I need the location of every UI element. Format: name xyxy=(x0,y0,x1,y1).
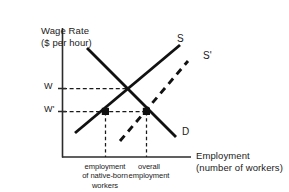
y-axis-title: Wage Rate($ per hour) xyxy=(41,25,92,48)
native-employment-caption-line1: employment xyxy=(85,162,126,171)
wage-low-label: W' xyxy=(44,104,55,115)
x-axis-title-line2: (number of workers) xyxy=(196,162,283,173)
supply-shifted-curve-label: S' xyxy=(203,50,212,62)
wage-high-label: W xyxy=(44,81,53,92)
supply-demand-figure: Wage Rate($ per hour) Employment(number … xyxy=(0,0,289,192)
guide-lines xyxy=(63,89,147,158)
curve-group xyxy=(75,45,188,141)
overall-employment-caption-line1: overall xyxy=(138,162,160,171)
y-axis-title-line2: ($ per hour) xyxy=(41,37,92,48)
y-axis-title-line1: Wage Rate xyxy=(41,25,89,36)
overall-employment-marker xyxy=(143,108,150,115)
native-employment-caption-line3: workers xyxy=(92,181,118,190)
supply-curve-label: S xyxy=(177,33,184,45)
overall-employment-caption: overallemployment xyxy=(123,162,175,181)
overall-employment-caption-line2: employment xyxy=(129,171,170,180)
x-axis-title: Employment(number of workers) xyxy=(196,150,283,173)
x-axis-title-line1: Employment xyxy=(196,150,250,161)
supply-shifted-curve xyxy=(120,61,188,141)
demand-curve-label: D xyxy=(182,126,189,138)
native-employment-marker xyxy=(102,108,109,115)
native-employment-caption-line2: of native-born xyxy=(82,171,128,180)
